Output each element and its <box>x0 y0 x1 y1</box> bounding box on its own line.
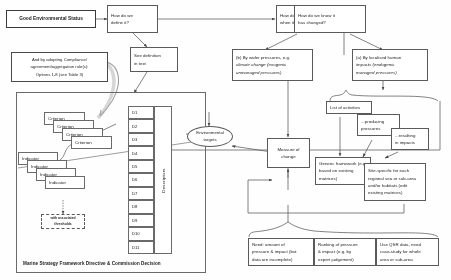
descriptor-label: D8 <box>132 204 137 209</box>
criterion-label-4: Criterion <box>75 140 92 145</box>
node-need-amount-of-pressure[interactable]: Need: amount of pressure & impact (but d… <box>248 238 314 266</box>
impacts-line1: ...resulting <box>395 132 425 139</box>
activities-label: List of activities <box>330 104 368 111</box>
descriptor-cell[interactable]: D7 <box>128 187 154 200</box>
generic-line1: Generic framework (e.g. <box>319 160 367 167</box>
ranking-line1: Ranking of pressure <box>318 241 372 248</box>
edge-pressures-down <box>363 140 372 157</box>
node-with-associated-thresholds[interactable]: with associated thresholds <box>41 214 85 229</box>
descriptor-label: D3 <box>132 137 137 142</box>
descriptor-label: D4 <box>132 151 137 156</box>
edge-haschanged-to-wider <box>265 34 297 50</box>
haschanged-line1: How do we know it <box>298 12 362 19</box>
node-resulting-in-impacts[interactable]: ...resulting in impacts <box>391 128 429 150</box>
node-environmental-targets[interactable]: Environmental targets <box>187 126 233 147</box>
descriptor-cell[interactable]: D4 <box>128 146 154 159</box>
brace-bottom-row <box>249 222 438 237</box>
edge-haschanged-to-localised <box>350 34 383 50</box>
wider-line1: (b) By wider pressures, e.g. <box>236 54 309 61</box>
node-good-environmental-status[interactable]: Good Environmental Status <box>6 10 96 28</box>
node-wider-pressures[interactable]: (b) By wider pressures, e.g. climate cha… <box>232 49 313 81</box>
descriptor-label: D2 <box>132 124 137 129</box>
descriptor-cell[interactable]: D9 <box>128 214 154 227</box>
node-how-do-we-define-it[interactable]: How do we define it? <box>107 5 158 33</box>
criterion-box-4[interactable]: Criterion <box>71 136 112 149</box>
sitespecific-line2: regional sea or sub-area <box>368 175 422 182</box>
edge-measure-to-targets <box>232 146 272 152</box>
ranking-line3: expert judgement) <box>318 256 372 263</box>
define-line2: define it? <box>111 19 154 26</box>
localised-line2: impacts (endogenic <box>356 61 424 68</box>
rule-line2: agreement/aggregation rule(s): <box>30 63 88 71</box>
need-line1: Need: amount of <box>252 241 310 248</box>
edge-define-to-seedef <box>133 33 147 47</box>
need-line3: data are incomplete) <box>252 256 310 263</box>
sitespecific-line4: existing matrices) <box>368 189 422 196</box>
descriptor-cell[interactable]: D6 <box>128 173 154 186</box>
generic-line3: matrices) <box>319 175 367 182</box>
node-ranking-of-pressure[interactable]: Ranking of pressure & impact (e.g. by ex… <box>314 238 376 266</box>
sitespecific-line1: Site-specific for each <box>368 167 422 174</box>
indicator-label-4: Indicator <box>49 180 66 185</box>
wider-line3: unmanaged pressures) <box>236 69 309 76</box>
rule-line1: And by adopting Compliance/ <box>32 56 87 64</box>
descriptor-label: D11 <box>132 245 139 250</box>
node-measure-of-change[interactable]: Measure of change <box>267 138 310 168</box>
need-line2: pressure & impact (but <box>252 248 310 255</box>
node-site-specific[interactable]: Site-specific for each regional sea or s… <box>364 163 426 201</box>
descriptor-label: D9 <box>132 218 137 223</box>
rule-line3: Options 1-8 (see Table 3) <box>36 71 83 79</box>
descriptor-label: D10 <box>132 231 140 236</box>
descriptor-cell[interactable]: D8 <box>128 200 154 213</box>
brace-activities-top <box>330 90 438 101</box>
descriptor-cell[interactable]: D1 <box>128 106 154 119</box>
edge-impacts-down <box>385 152 398 158</box>
measure-line2: change <box>281 153 296 160</box>
descriptor-cell[interactable]: D10 <box>128 227 154 240</box>
descriptor-cell[interactable]: D11 <box>128 241 154 254</box>
indicator-box-4[interactable]: Indicator <box>45 176 85 189</box>
targets-line1: Environmental <box>196 130 223 137</box>
wider-line2: climate change (exogenic <box>236 61 309 68</box>
haschanged-line2: has changed? <box>298 19 362 26</box>
msfd-panel-caption: Marine Strategy Framework Directive & Co… <box>23 261 161 266</box>
descriptor-label: D6 <box>132 177 137 182</box>
node-localised-human-impacts[interactable]: (a) By localised human impacts (endogeni… <box>352 49 428 81</box>
seedef-line2: in text <box>134 60 174 67</box>
node-use-qsr-data[interactable]: Use QSR data, need case-study for whole … <box>376 238 439 266</box>
seedef-line1: See definition <box>134 52 174 59</box>
ges-label: Good Environmental Status <box>19 15 83 23</box>
measure-line1: Measure of <box>277 146 299 153</box>
node-list-of-activities[interactable]: List of activities <box>326 101 372 114</box>
node-compliance-aggregation-rules[interactable]: And by adopting Compliance/ agreement/ag… <box>11 52 108 82</box>
descriptors-axis-label: Descriptors <box>154 106 172 254</box>
descriptor-cell[interactable]: D2 <box>128 119 154 132</box>
descriptor-label: D5 <box>132 164 137 169</box>
descriptors-label-text: Descriptors <box>161 168 166 192</box>
sitespecific-line3: and/or habitats (edit <box>368 182 422 189</box>
descriptor-cell[interactable]: D5 <box>128 160 154 173</box>
pressures-line1: ...producing <box>361 118 396 125</box>
define-line1: How do we <box>111 12 154 19</box>
qsr-line2: case-study for whole <box>380 248 435 255</box>
edge-seedef-to-panel <box>134 72 147 93</box>
qsr-line3: area or sub-area <box>380 256 435 263</box>
impacts-line2: in impacts <box>395 139 425 146</box>
node-see-definition-in-text[interactable]: See definition in text <box>130 47 178 72</box>
node-how-do-we-know-changed[interactable]: How do we know it has changed? <box>294 5 366 33</box>
descriptor-cell[interactable]: D3 <box>128 133 154 146</box>
ranking-line2: & impact (e.g. by <box>318 248 372 255</box>
diagram-canvas: Good Environmental Status How do we defi… <box>0 0 451 280</box>
generic-line2: based on existing <box>319 167 367 174</box>
descriptor-label: D1 <box>132 110 137 115</box>
thresholds-line2: thresholds <box>54 222 71 227</box>
node-generic-framework[interactable]: Generic framework (e.g. based on existin… <box>315 157 371 185</box>
targets-line2: targets <box>203 137 216 144</box>
localised-line3: managed pressures) <box>356 69 424 76</box>
localised-line1: (a) By localised human <box>356 54 424 61</box>
qsr-line1: Use QSR data, need <box>380 241 435 248</box>
descriptor-label: D7 <box>132 191 137 196</box>
